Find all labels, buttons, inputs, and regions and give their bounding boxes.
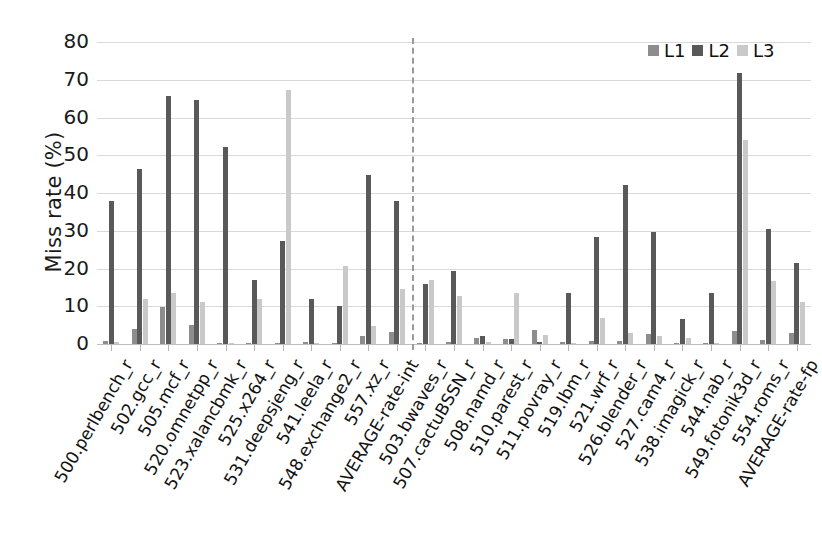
bar-l1 <box>275 343 280 344</box>
bar-l1 <box>417 343 422 345</box>
bar-l3 <box>114 342 119 344</box>
bar-l1 <box>732 331 737 344</box>
x-tick-mark <box>654 345 655 351</box>
bar-group <box>446 42 462 344</box>
bar-group <box>617 42 633 344</box>
bar-l2 <box>394 201 399 344</box>
bar-l2 <box>709 293 714 344</box>
legend-entry-l2: L2 <box>692 40 729 61</box>
bar-l3 <box>514 293 519 344</box>
bar-group <box>703 42 719 344</box>
chart-figure: Miss rate (%) 80706050403020100 500.perl… <box>0 0 822 548</box>
bar-l3 <box>628 333 633 344</box>
x-tick-mark <box>511 345 512 351</box>
bar-l1 <box>217 343 222 344</box>
bar-l1 <box>360 336 365 344</box>
bar-l3 <box>771 281 776 344</box>
bar-l2 <box>566 293 571 344</box>
bar-group <box>560 42 576 344</box>
bar-group <box>389 42 405 344</box>
x-tick-mark <box>540 345 541 351</box>
x-tick-mark <box>254 345 255 351</box>
y-axis-tick-labels: 80706050403020100 <box>33 42 89 344</box>
y-tick-label: 80 <box>37 29 89 53</box>
x-tick-mark <box>483 345 484 351</box>
bar-l3 <box>686 338 691 344</box>
y-tick-label: 30 <box>37 218 89 242</box>
x-tick-mark <box>168 345 169 351</box>
bar-l2 <box>194 100 199 344</box>
bar-group <box>532 42 548 344</box>
y-tick-label: 40 <box>37 180 89 204</box>
bar-l1 <box>789 333 794 344</box>
plot-area <box>97 42 811 344</box>
bar-group <box>589 42 605 344</box>
x-tick-mark <box>197 345 198 351</box>
x-tick-mark <box>625 345 626 351</box>
bar-group <box>674 42 690 344</box>
bar-l1 <box>332 343 337 344</box>
bar-l3 <box>400 289 405 344</box>
bar-l2 <box>480 336 485 344</box>
bar-group <box>132 42 148 344</box>
bar-group <box>246 42 262 344</box>
bar-l1 <box>703 343 708 344</box>
bar-l1 <box>132 329 137 344</box>
bar-l3 <box>371 326 376 344</box>
bar-l2 <box>623 185 628 344</box>
bar-group <box>189 42 205 344</box>
bar-l1 <box>532 330 537 344</box>
bar-l2 <box>109 201 114 344</box>
group-divider <box>412 38 414 350</box>
bar-l2 <box>680 319 685 344</box>
bar-group <box>789 42 805 344</box>
bar-group <box>303 42 319 344</box>
bar-l1 <box>160 307 165 344</box>
bar-l1 <box>760 340 765 344</box>
bar-group <box>332 42 348 344</box>
bar-l2 <box>166 96 171 344</box>
legend-swatch-l2-icon <box>692 45 703 56</box>
bar-l1 <box>617 341 622 344</box>
bar-l3 <box>543 335 548 344</box>
x-tick-mark <box>711 345 712 351</box>
bar-l1 <box>560 342 565 344</box>
bar-group <box>103 42 119 344</box>
bar-l3 <box>343 266 348 344</box>
bar-l2 <box>337 306 342 344</box>
x-tick-mark <box>311 345 312 351</box>
x-tick-mark <box>797 345 798 351</box>
bar-l1 <box>503 339 508 344</box>
bar-l2 <box>366 175 371 344</box>
bar-l2 <box>252 280 257 344</box>
legend-entry-l1: L1 <box>648 40 685 61</box>
bar-l3 <box>457 296 462 344</box>
x-tick-mark <box>454 345 455 351</box>
bar-l3 <box>314 343 319 344</box>
chart-legend: L1L2L3 <box>648 40 774 61</box>
bar-l3 <box>657 336 662 344</box>
bar-l2 <box>423 284 428 344</box>
x-tick-mark <box>768 345 769 351</box>
bar-group <box>760 42 776 344</box>
legend-label: L1 <box>664 40 685 61</box>
bar-l2 <box>451 271 456 344</box>
bar-l2 <box>737 73 742 344</box>
bar-l3 <box>143 299 148 344</box>
y-tick-label: 10 <box>37 293 89 317</box>
bar-l2 <box>223 147 228 344</box>
legend-swatch-l3-icon <box>737 45 748 56</box>
bar-l1 <box>589 341 594 344</box>
bar-l2 <box>309 299 314 344</box>
bar-l3 <box>429 280 434 344</box>
bar-group <box>474 42 490 344</box>
bar-l1 <box>474 338 479 344</box>
x-tick-mark <box>682 345 683 351</box>
bar-group <box>275 42 291 344</box>
bar-l2 <box>794 263 799 344</box>
bar-l1 <box>189 325 194 344</box>
y-tick-label: 50 <box>37 142 89 166</box>
bar-l2 <box>137 169 142 344</box>
bar-l2 <box>594 237 599 344</box>
bar-l2 <box>537 342 542 344</box>
